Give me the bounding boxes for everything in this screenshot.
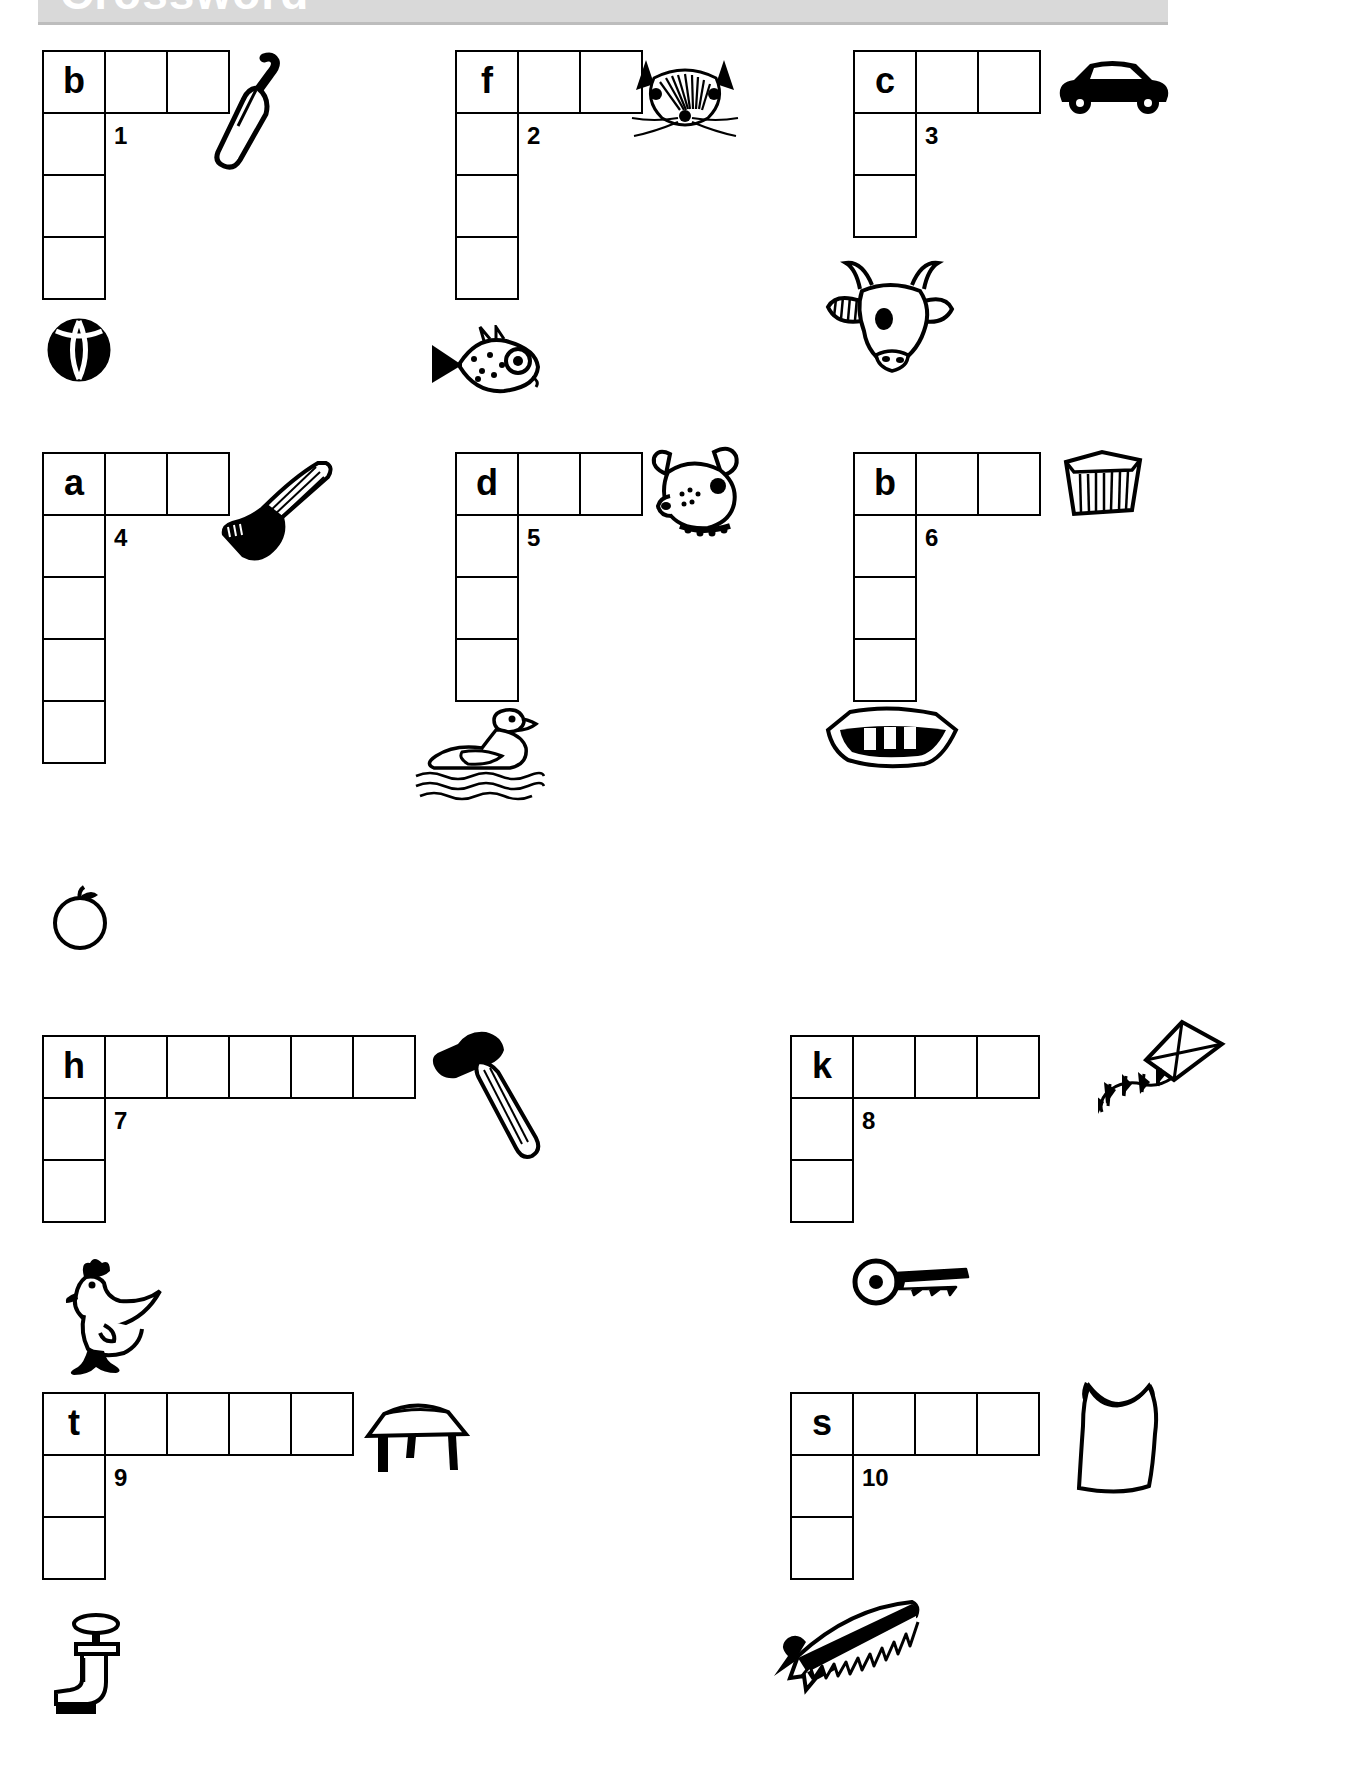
puzzle-4-down-cell[interactable] [42, 576, 106, 640]
puzzle-4-across-cell[interactable] [104, 452, 168, 516]
puzzle-6-across-row: b [853, 452, 1041, 516]
puzzle-10-down-column [790, 1454, 1040, 1580]
puzzle-8: k 8 [790, 1035, 1040, 1223]
puzzle-5-letter-cell[interactable]: d [455, 452, 519, 516]
puzzle-6-across-cell[interactable] [977, 452, 1041, 516]
puzzle-1-letter-cell[interactable]: b [42, 50, 106, 114]
duck-icon [410, 700, 550, 805]
puzzle-10-down-cell[interactable] [790, 1516, 854, 1580]
puzzle-9-across-cell[interactable] [228, 1392, 292, 1456]
puzzle-8-letter-cell[interactable]: k [790, 1035, 854, 1099]
puzzle-6-across-cell[interactable] [915, 452, 979, 516]
puzzle-2-letter-cell[interactable]: f [455, 50, 519, 114]
puzzle-8-across-row: k [790, 1035, 1040, 1099]
puzzle-4-letter-cell[interactable]: a [42, 452, 106, 516]
puzzle-2-letter: f [481, 63, 493, 99]
puzzle-10-down-cell[interactable] [790, 1454, 854, 1518]
puzzle-3-letter-cell[interactable]: c [853, 50, 917, 114]
puzzle-7-across-row: h [42, 1035, 416, 1099]
puzzle-7-across-cell[interactable] [104, 1035, 168, 1099]
axe-icon [208, 455, 333, 570]
puzzle-5-across-cell[interactable] [517, 452, 581, 516]
puzzle-3-down-cell[interactable] [853, 174, 917, 238]
puzzle-5-down-cell[interactable] [455, 638, 519, 702]
puzzle-5-down-column [455, 514, 643, 702]
puzzle-7-across-cell[interactable] [290, 1035, 354, 1099]
puzzle-1-down-column [42, 112, 230, 300]
puzzle-7-down-cell[interactable] [42, 1097, 106, 1161]
header-band: Crossword [38, 0, 1168, 25]
puzzle-9-grid: t 9 [42, 1392, 354, 1580]
puzzle-2-down-cell[interactable] [455, 236, 519, 300]
puzzle-3-grid: c 3 [853, 50, 1041, 238]
puzzle-3-letter: c [875, 63, 895, 99]
puzzle-6-letter-cell[interactable]: b [853, 452, 917, 516]
puzzle-9-down-cell[interactable] [42, 1516, 106, 1580]
puzzle-5-down-cell[interactable] [455, 576, 519, 640]
puzzle-2-grid: f 2 [455, 50, 643, 300]
puzzle-4-across-row: a [42, 452, 230, 516]
puzzle-3-down-column [853, 112, 1041, 238]
puzzle-3-across-cell[interactable] [977, 50, 1041, 114]
puzzle-1-down-cell[interactable] [42, 236, 106, 300]
puzzle-10-grid: s 10 [790, 1392, 1040, 1580]
page-title: Crossword [60, 0, 309, 20]
puzzle-7-clue-number: 7 [114, 1107, 127, 1135]
apple-icon [48, 885, 114, 951]
cow-icon [820, 255, 960, 380]
puzzle-5-down-cell[interactable] [455, 514, 519, 578]
puzzle-8-across-cell[interactable] [852, 1035, 916, 1099]
puzzle-6-clue-number: 6 [925, 524, 938, 552]
ball-icon [44, 315, 114, 385]
puzzle-1-across-cell[interactable] [104, 50, 168, 114]
puzzle-10-across-cell[interactable] [976, 1392, 1040, 1456]
puzzle-3-down-cell[interactable] [853, 112, 917, 176]
puzzle-8-down-cell[interactable] [790, 1159, 854, 1223]
puzzle-4-clue-number: 4 [114, 524, 127, 552]
puzzle-7-across-cell[interactable] [228, 1035, 292, 1099]
puzzle-7: h 7 [42, 1035, 416, 1223]
puzzle-7-letter: h [63, 1048, 85, 1084]
puzzle-9-across-cell[interactable] [104, 1392, 168, 1456]
hen-icon [48, 1255, 173, 1380]
puzzle-1-grid: b 1 [42, 50, 230, 300]
puzzle-9: t 9 [42, 1392, 354, 1580]
puzzle-9-down-cell[interactable] [42, 1454, 106, 1518]
puzzle-8-down-cell[interactable] [790, 1097, 854, 1161]
puzzle-6-down-cell[interactable] [853, 514, 917, 578]
box-icon [1060, 448, 1145, 528]
puzzle-9-letter-cell[interactable]: t [42, 1392, 106, 1456]
puzzle-3-across-row: c [853, 50, 1041, 114]
puzzle-4-down-cell[interactable] [42, 514, 106, 578]
puzzle-1-down-cell[interactable] [42, 112, 106, 176]
fox-icon [628, 48, 743, 158]
puzzle-7-across-cell[interactable] [352, 1035, 416, 1099]
puzzle-3-across-cell[interactable] [915, 50, 979, 114]
puzzle-5-letter: d [476, 465, 498, 501]
puzzle-8-across-cell[interactable] [976, 1035, 1040, 1099]
puzzle-1-down-cell[interactable] [42, 174, 106, 238]
puzzle-2-across-cell[interactable] [517, 50, 581, 114]
puzzle-6-down-cell[interactable] [853, 576, 917, 640]
puzzle-2-down-cell[interactable] [455, 174, 519, 238]
puzzle-9-across-cell[interactable] [290, 1392, 354, 1456]
puzzle-6-down-column [853, 514, 1041, 702]
puzzle-10-letter-cell[interactable]: s [790, 1392, 854, 1456]
puzzle-9-down-column [42, 1454, 354, 1580]
puzzle-4-down-cell[interactable] [42, 638, 106, 702]
puzzle-4-down-cell[interactable] [42, 700, 106, 764]
puzzle-10-across-cell[interactable] [852, 1392, 916, 1456]
puzzle-7-across-cell[interactable] [166, 1035, 230, 1099]
puzzle-7-grid: h 7 [42, 1035, 416, 1223]
puzzle-8-across-cell[interactable] [914, 1035, 978, 1099]
hammer-icon [428, 1028, 543, 1163]
puzzle-10-across-row: s [790, 1392, 1040, 1456]
puzzle-4-down-column [42, 514, 230, 764]
puzzle-6-down-cell[interactable] [853, 638, 917, 702]
puzzle-7-letter-cell[interactable]: h [42, 1035, 106, 1099]
puzzle-2-down-cell[interactable] [455, 112, 519, 176]
puzzle-5-across-cell[interactable] [579, 452, 643, 516]
puzzle-7-down-cell[interactable] [42, 1159, 106, 1223]
puzzle-10-across-cell[interactable] [914, 1392, 978, 1456]
puzzle-9-across-cell[interactable] [166, 1392, 230, 1456]
